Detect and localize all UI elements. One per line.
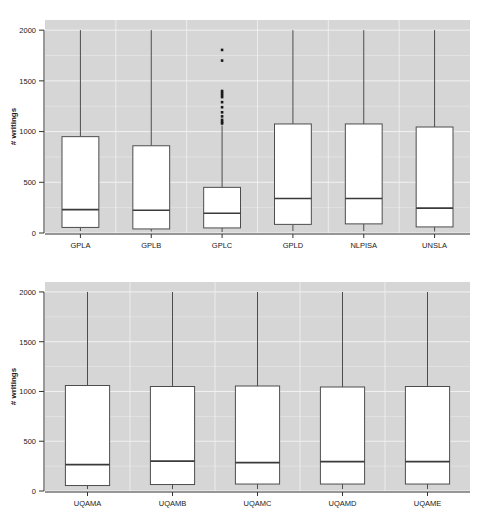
boxplot-panel-bottom: 0500100015002000# writingsUQAMAUQAMBUQAM… [0,264,478,528]
x-axis-category-label: UQAMA [74,499,102,508]
boxplot-figure: 0500100015002000# writingsGPLAGPLBGPLCGP… [0,0,478,528]
box-iqr [62,137,99,228]
outlier-point [221,49,224,52]
y-axis-title: # writings [9,367,18,405]
outlier-point [221,111,224,114]
outlier-point [221,106,224,109]
boxplot-top-svg: 0500100015002000# writingsGPLAGPLBGPLCGP… [0,0,478,264]
outlier-point [221,101,224,104]
x-axis-category-label: UQAME [414,499,442,508]
y-axis-title: # writings [9,107,18,145]
x-axis-category-label: UQAMC [244,499,273,508]
y-axis-tick-label: 2000 [19,26,36,35]
y-axis-tick-label: 500 [23,437,36,446]
box-iqr [150,387,194,485]
y-axis-tick-label: 1000 [19,387,36,396]
outlier-point [221,90,224,93]
x-axis-category-label: UNSLA [422,241,447,250]
outlier-point [221,119,224,122]
y-axis-tick-label: 0 [32,229,36,238]
x-axis-category-label: GPLD [283,241,304,250]
y-axis-tick-label: 0 [32,487,36,496]
box-iqr [345,124,382,224]
y-axis-tick-label: 500 [23,178,36,187]
box-iqr [320,387,364,484]
y-axis-tick-label: 2000 [19,288,36,297]
box-iqr [204,187,241,228]
x-axis-category-label: UQAMD [329,499,358,508]
boxplot-bottom-svg: 0500100015002000# writingsUQAMAUQAMBUQAM… [0,264,478,528]
outlier-point [221,59,224,62]
y-axis-tick-label: 1000 [19,127,36,136]
y-axis-tick-label: 1500 [19,77,36,86]
x-axis-category-label: GPLB [141,241,161,250]
outlier-point [221,115,224,118]
box-iqr [235,386,279,484]
box-iqr [275,124,312,224]
box-iqr [416,127,453,227]
box-iqr [133,146,170,229]
x-axis-category-label: GPLC [212,241,233,250]
x-axis-category-label: NLPISA [350,241,377,250]
x-axis-category-label: UQAMB [159,499,187,508]
box-iqr [65,386,109,486]
x-axis-category-label: GPLA [70,241,90,250]
y-axis-tick-label: 1500 [19,338,36,347]
boxplot-panel-top: 0500100015002000# writingsGPLAGPLBGPLCGP… [0,0,478,264]
box-iqr [405,387,449,485]
